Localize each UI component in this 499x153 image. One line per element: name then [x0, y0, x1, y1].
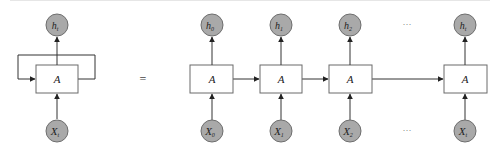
- ellipsis-bottom: ···: [403, 125, 412, 135]
- output-node-h0: h0: [201, 14, 223, 36]
- input-sub: 2: [350, 132, 353, 138]
- cell-label: A: [277, 73, 285, 85]
- output-sub: 1: [280, 26, 283, 32]
- output-sub: 2: [349, 26, 352, 32]
- unrolled-cell-2: A h2 X2: [329, 14, 372, 142]
- output-node-h1: h1: [270, 14, 292, 36]
- unrolled-cell-1: A h1 X1: [260, 14, 302, 142]
- rolled-output-node: ht: [46, 14, 68, 36]
- input-node-x1: X1: [270, 120, 292, 142]
- rnn-diagram: A ht Xt =: [0, 0, 499, 153]
- rolled-cell-label: A: [53, 73, 61, 85]
- rolled-rnn: A ht Xt: [18, 14, 95, 142]
- ellipsis-top: ···: [403, 19, 412, 29]
- input-node-x2: X2: [339, 120, 361, 142]
- cell-label: A: [208, 73, 216, 85]
- rolled-input-node: Xt: [46, 120, 68, 142]
- unrolled-rnn: A h0 X0 A h1: [190, 14, 487, 142]
- cell-label: A: [346, 73, 354, 85]
- cell-label: A: [461, 73, 469, 85]
- output-sub: 0: [211, 26, 214, 32]
- input-node-x0: X0: [201, 120, 223, 142]
- input-sub: 0: [212, 132, 215, 138]
- input-sub: 1: [281, 132, 284, 138]
- output-node-h2: h2: [339, 14, 361, 36]
- unrolled-cell-0: A h0 X0: [190, 14, 233, 142]
- input-node-xt: Xt: [454, 120, 476, 142]
- unrolled-cell-t: A ht Xt: [444, 14, 487, 142]
- output-node-ht: ht: [454, 14, 476, 36]
- equals-sign: =: [140, 72, 147, 86]
- top-divider: [10, 0, 490, 1]
